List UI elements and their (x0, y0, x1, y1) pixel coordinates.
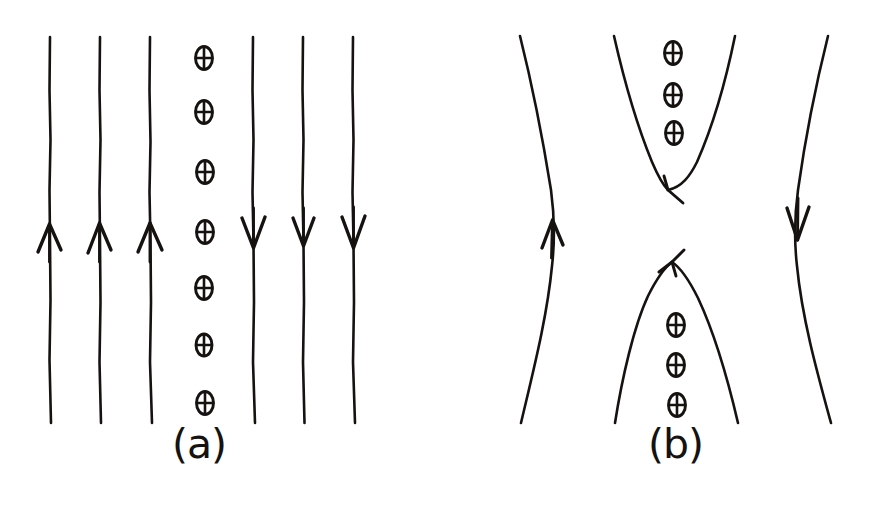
figure-root: (a) (b) (0, 0, 881, 505)
panel-label-b: (b) (648, 424, 703, 465)
panel-b-outer-right-field-line (787, 36, 831, 423)
current-out-of-page-icon (197, 161, 214, 184)
current-out-of-page-icon (196, 47, 213, 70)
current-out-of-page-icon (666, 122, 683, 145)
current-out-of-page-icon (196, 277, 213, 300)
panel-a-current-sheet (196, 47, 214, 415)
current-out-of-page-icon (669, 394, 686, 417)
panel-a (38, 37, 365, 423)
current-out-of-page-icon (665, 84, 682, 107)
separatrix-upper-left-branch (614, 36, 668, 190)
current-out-of-page-icon (665, 42, 682, 65)
panel-label-a: (a) (172, 424, 226, 465)
panel-b-upper-current-symbols (665, 42, 683, 145)
arrowhead-up-outer-left-barb (552, 220, 553, 258)
separatrix-lower-left-branch (615, 262, 672, 423)
current-out-of-page-icon (197, 392, 214, 415)
current-out-of-page-icon (196, 334, 212, 356)
current-out-of-page-icon (668, 354, 685, 377)
current-out-of-page-icon (196, 101, 213, 124)
arrowhead-down-outer-right-barb (798, 198, 799, 240)
panel-a-upward-field-lines (38, 37, 162, 423)
figure-canvas (0, 0, 881, 505)
current-out-of-page-icon (668, 314, 685, 337)
panel-b-outer-left-field-line (520, 36, 563, 423)
panel-b (520, 36, 831, 423)
current-out-of-page-icon (197, 221, 214, 244)
panel-a-downward-field-lines (242, 37, 365, 423)
panel-b-lower-current-symbols (668, 314, 686, 417)
